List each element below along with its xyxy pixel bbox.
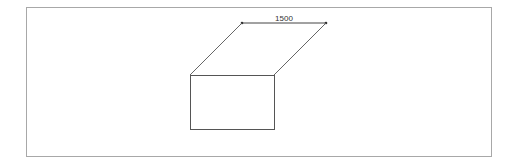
diagram-canvas: 1500 xyxy=(0,0,517,168)
dimension-label: 1500 xyxy=(275,14,293,23)
diagonal-right xyxy=(274,23,326,75)
diagonal-left xyxy=(190,23,242,75)
front-rectangle xyxy=(191,76,275,130)
